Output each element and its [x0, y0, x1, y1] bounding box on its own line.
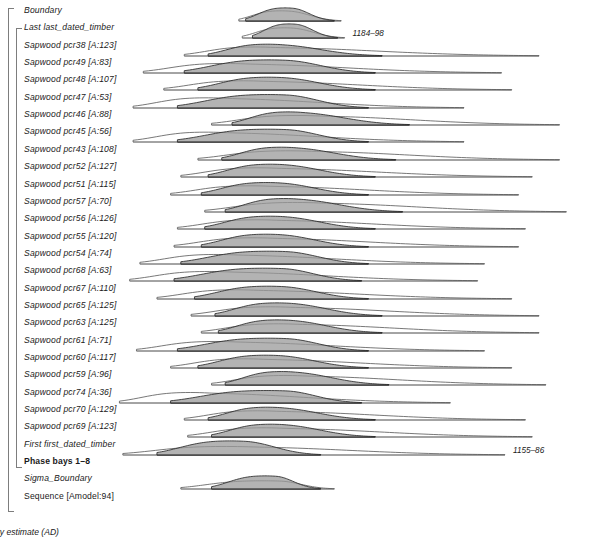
posterior-density-area: [212, 425, 376, 438]
row-label-sapwood-pcr67-a-110: Sapwood pcr67 [A:110]: [24, 283, 116, 294]
posterior-density-area: [205, 216, 376, 229]
row-label-sapwood-pcr56-a-126: Sapwood pcr56 [A:126]: [24, 213, 117, 224]
prior-density-outline: [212, 376, 546, 386]
row-label-sapwood-pcr60-a-117: Sapwood pcr60 [A:117]: [24, 352, 116, 363]
posterior-density-area: [225, 198, 402, 211]
prior-density-outline: [201, 324, 539, 333]
prior-density-outline: [184, 47, 539, 56]
row-label-sapwood-pcr47-a-53: Sapwood pcr47 [A:53]: [24, 92, 112, 103]
axis-title-label: posterior density estimate (AD): [0, 527, 59, 537]
prior-density-outline: [136, 341, 484, 351]
posterior-density-area: [208, 164, 375, 177]
posterior-density-area: [198, 78, 375, 91]
row-label-sapwood-pcr57-a-70: Sapwood pcr57 [A:70]: [24, 196, 112, 207]
row-label-sapwood-pcr63-a-125: Sapwood pcr63 [A:125]: [24, 317, 117, 328]
posterior-density-area: [181, 251, 369, 264]
posterior-density-area: [194, 286, 368, 299]
prior-density-outline: [171, 185, 519, 194]
prior-density-outline: [130, 272, 478, 282]
prior-density-outline: [239, 11, 341, 21]
prior-density-outline: [164, 81, 512, 90]
row-label-sigma-boundary: Sigma_Boundary: [24, 473, 92, 484]
posterior-density-area: [177, 94, 368, 107]
prior-density-outline: [133, 98, 464, 108]
row-label-sapwood-pcr43-a-108: Sapwood pcr43 [A:108]: [24, 144, 117, 155]
row-label-sapwood-pcr45-a-56: Sapwood pcr45 [A:56]: [24, 126, 112, 137]
row-label-sapwood-pcr65-a-125: Sapwood pcr65 [A:125]: [24, 300, 117, 311]
posterior-density-area: [222, 147, 396, 160]
prior-density-outline: [174, 237, 519, 246]
row-label-sapwood-pcr55-a-120: Sapwood pcr55 [A:120]: [24, 231, 117, 242]
row-label-sapwood-pcr68-a-63: Sapwood pcr68 [A:63]: [24, 265, 112, 276]
prior-density-outline: [140, 254, 485, 264]
row-label-sapwood-pcr69-a-123: Sapwood pcr69 [A:123]: [24, 421, 117, 432]
prior-density-outline: [143, 64, 501, 74]
ox-cal-plot: BoundaryLast last_dated_timber1184–98Sap…: [0, 0, 600, 559]
posterior-density-area: [212, 476, 321, 489]
row-label-sapwood-pcr46-a-88: Sapwood pcr46 [A:88]: [24, 109, 112, 120]
posterior-density-area: [208, 407, 375, 420]
posterior-density-area: [232, 112, 409, 125]
prior-density-outline: [212, 116, 560, 126]
prior-density-outline: [242, 28, 344, 38]
posterior-density-area: [177, 130, 368, 143]
posterior-density-area: [174, 268, 362, 281]
date-range-annotation: 1155–86: [513, 446, 544, 455]
posterior-density-area: [177, 338, 368, 351]
prior-density-outline: [188, 428, 533, 437]
posterior-density-area: [201, 182, 368, 194]
posterior-density-area: [171, 390, 362, 402]
row-label-sapwood-pcr52-a-127: Sapwood pcr52 [A:127]: [24, 161, 117, 172]
row-label-sapwood-pcr59-a-96: Sapwood pcr59 [A:96]: [24, 369, 112, 380]
posterior-density-area: [201, 234, 368, 247]
posterior-density-area: [252, 24, 337, 38]
posterior-density-area: [157, 441, 321, 455]
date-range-annotation: 1184–98: [353, 29, 384, 38]
posterior-density-area: [246, 8, 335, 21]
prior-density-outline: [198, 151, 560, 160]
row-label-phase-bays-1-8: Phase bays 1–8: [24, 456, 90, 467]
row-label-boundary: Boundary: [24, 5, 62, 16]
row-label-sapwood-pcr48-a-107: Sapwood pcr48 [A:107]: [24, 74, 117, 85]
row-label-sapwood-pcr54-a-74: Sapwood pcr54 [A:74]: [24, 248, 112, 259]
prior-density-outline: [181, 481, 335, 489]
row-label-sequence-amodel-94: Sequence [Amodel:94]: [24, 491, 114, 502]
prior-density-outline: [177, 220, 525, 229]
row-label-sapwood-pcr38-a-123: Sapwood pcr38 [A:123]: [24, 40, 117, 51]
prior-density-outline: [133, 133, 464, 143]
prior-density-outline: [157, 289, 512, 298]
prior-density-outline: [181, 168, 532, 177]
posterior-density-area: [225, 372, 389, 385]
posterior-density-area: [208, 44, 382, 56]
posterior-density-area: [198, 355, 369, 368]
row-label-sapwood-pcr70-a-129: Sapwood pcr70 [A:129]: [24, 404, 117, 415]
row-label-last-last-dated-timber: Last last_dated_timber: [24, 22, 114, 33]
prior-density-outline: [191, 307, 539, 316]
prior-density-outline: [119, 392, 450, 403]
row-label-sapwood-pcr74-a-36: Sapwood pcr74 [A:36]: [24, 387, 112, 398]
row-label-first-first-dated-timber: First first_dated_timber: [24, 439, 115, 450]
prior-density-outline: [171, 359, 512, 368]
row-label-sapwood-pcr51-a-115: Sapwood pcr51 [A:115]: [24, 179, 116, 190]
row-label-sapwood-pcr49-a-83: Sapwood pcr49 [A:83]: [24, 57, 112, 68]
prior-density-outline: [205, 202, 567, 212]
prior-density-outline: [184, 411, 525, 420]
posterior-density-area: [215, 303, 382, 316]
prior-density-outline: [123, 446, 505, 455]
posterior-density-area: [218, 320, 382, 333]
posterior-density-area: [184, 60, 375, 73]
row-label-sapwood-pcr61-a-71: Sapwood pcr61 [A:71]: [24, 335, 112, 346]
x-axis: posterior density estimate (AD): [0, 505, 600, 559]
